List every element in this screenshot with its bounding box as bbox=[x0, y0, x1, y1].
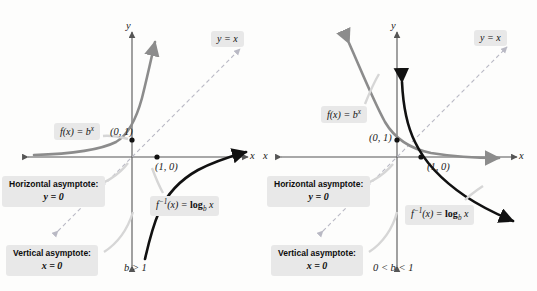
inverse-function-label-left: f−1(x) = logb x bbox=[150, 196, 219, 216]
inverse-log-left: log bbox=[190, 199, 203, 210]
panel-base-greater-than-one: y x y = x f(x) = bx (0, 1) (1, 0) f−1(x)… bbox=[0, 0, 268, 291]
leader-vertical-asymptote-left bbox=[104, 212, 133, 252]
panel-base-between-zero-and-one: y x x y = x f(x) = bx (0, 1) (1, 0) f−1(… bbox=[269, 0, 537, 291]
vertical-asymptote-title-right: Vertical asymptote: bbox=[278, 248, 356, 259]
inverse-function-label-right: f−1(x) = logb x bbox=[405, 205, 474, 225]
horizontal-asymptote-equation-left: y = 0 bbox=[9, 190, 98, 204]
x-axis-label-left-side-right: x bbox=[263, 150, 268, 162]
horizontal-asymptote-callout-left: Horizontal asymptote: y = 0 bbox=[2, 176, 105, 207]
exponential-exponent-right: x bbox=[358, 108, 361, 116]
y-axis-label-right: y bbox=[391, 20, 396, 32]
point-0-1-dot-right bbox=[394, 137, 399, 142]
exponential-exponent-left: x bbox=[91, 125, 94, 133]
inverse-arg-right: (x) = bbox=[422, 208, 445, 219]
horizontal-asymptote-callout-right: Horizontal asymptote: y = 0 bbox=[267, 176, 370, 207]
inverse-var-left: x bbox=[209, 199, 213, 210]
vertical-asymptote-title-left: Vertical asymptote: bbox=[13, 248, 91, 259]
inverse-arg-left: (x) = bbox=[167, 199, 190, 210]
inverse-exponent-left: −1 bbox=[159, 198, 167, 206]
figure-exponential-logarithmic-inverses: y x y = x f(x) = bx (0, 1) (1, 0) f−1(x)… bbox=[0, 0, 537, 291]
inverse-var-right: x bbox=[464, 208, 468, 219]
point-label-0-1-right: (0, 1) bbox=[369, 132, 392, 144]
exponential-arg-left: (x) = bbox=[63, 126, 86, 137]
point-label-1-0-right: (1, 0) bbox=[427, 161, 450, 173]
horizontal-asymptote-title-right: Horizontal asymptote: bbox=[274, 179, 363, 190]
y-axis-label-left: y bbox=[126, 20, 131, 32]
vertical-asymptote-equation-left: x = 0 bbox=[13, 259, 91, 273]
exponential-function-label-left: f(x) = bx bbox=[54, 123, 100, 140]
point-1-0-dot-right bbox=[418, 154, 423, 159]
exponential-arg-right: (x) = bbox=[330, 109, 353, 120]
base-condition-left: b > 1 bbox=[124, 262, 147, 274]
point-label-0-1-left: (0, 1) bbox=[110, 126, 133, 138]
leader-logarithm-right bbox=[465, 186, 483, 200]
exponential-function-label-right: f(x) = bx bbox=[321, 106, 367, 123]
x-axis-label-left: x bbox=[250, 150, 255, 162]
identity-line-label-left: y = x bbox=[211, 31, 244, 47]
vertical-asymptote-callout-right: Vertical asymptote: x = 0 bbox=[271, 245, 363, 276]
inverse-log-right: log bbox=[445, 208, 458, 219]
vertical-asymptote-callout-left: Vertical asymptote: x = 0 bbox=[6, 245, 98, 276]
leader-vertical-asymptote-right bbox=[369, 212, 397, 252]
logarithm-curve-right bbox=[402, 82, 513, 221]
inverse-sub-right: b bbox=[458, 214, 462, 222]
point-1-0-dot-left bbox=[154, 154, 159, 159]
identity-line-label-right: y = x bbox=[474, 30, 507, 46]
inverse-sub-left: b bbox=[203, 205, 207, 213]
base-condition-right: 0 < b < 1 bbox=[373, 262, 413, 274]
x-axis-label-right: x bbox=[519, 150, 524, 162]
horizontal-asymptote-equation-right: y = 0 bbox=[274, 190, 363, 204]
horizontal-asymptote-title-left: Horizontal asymptote: bbox=[9, 179, 98, 190]
point-label-1-0-left: (1, 0) bbox=[155, 161, 178, 173]
inverse-exponent-right: −1 bbox=[414, 207, 422, 215]
leader-exponential-right bbox=[365, 74, 379, 104]
vertical-asymptote-equation-right: x = 0 bbox=[278, 259, 356, 273]
